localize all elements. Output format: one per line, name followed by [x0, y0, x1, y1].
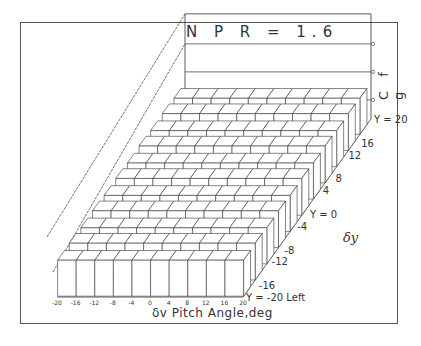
- bars: [58, 89, 367, 297]
- x-tick-label: -4: [128, 299, 134, 306]
- y-tick-label: 8: [336, 173, 342, 184]
- x-tick-label: -16: [71, 299, 81, 306]
- y-tick-label: 4: [323, 185, 329, 196]
- y-axis-label: δy: [343, 230, 358, 245]
- z-axis-label: C f g: [376, 55, 406, 100]
- y-tick-label: Y = 0: [309, 209, 337, 220]
- x-tick-label: 16: [221, 299, 229, 306]
- y-tick-label: Y = 20: [373, 114, 408, 125]
- x-tick-label: 0: [148, 299, 152, 306]
- y-tick-label: -12: [272, 256, 288, 267]
- x-tick-label: 12: [202, 299, 210, 306]
- x-tick-label: -20: [52, 299, 62, 306]
- y-tick-label: -8: [284, 245, 294, 256]
- y-tick-label: Y = -20 Left: [245, 292, 305, 303]
- x-axis-label: δv Pitch Angle,deg: [152, 306, 273, 320]
- bar3d-plot: -20-16-12-8-4048121620 Y = -20 Left-16-1…: [0, 0, 421, 346]
- x-tick-labels: -20-16-12-8-4048121620: [52, 299, 247, 306]
- y-tick-label: -4: [297, 221, 307, 232]
- x-tick-label: 4: [167, 299, 171, 306]
- y-tick-label: 12: [348, 150, 361, 161]
- x-tick-label: -8: [110, 299, 116, 306]
- y-tick-label: -16: [259, 280, 275, 291]
- x-tick-label: -12: [89, 299, 99, 306]
- x-tick-label: 8: [185, 299, 189, 306]
- y-tick-label: 16: [361, 138, 374, 149]
- bar-row: [58, 250, 251, 296]
